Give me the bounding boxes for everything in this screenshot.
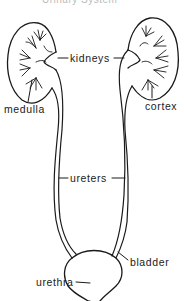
right-ureter-outer — [112, 50, 128, 256]
left-ureter-inner — [56, 70, 76, 254]
right-renal-pelvis — [128, 50, 140, 68]
urethra-leader — [76, 282, 90, 283]
label-bladder: bladder — [130, 257, 169, 268]
label-kidneys: kidneys — [70, 53, 110, 64]
left-ureter-outer — [52, 88, 72, 258]
label-medulla: medulla — [4, 104, 45, 115]
bladder-top — [72, 251, 122, 301]
right-ureter-inner — [116, 86, 132, 258]
label-cortex: cortex — [145, 101, 177, 112]
left-kidney-outline — [8, 23, 56, 104]
left-kidney-medulla — [20, 30, 52, 90]
label-urethra: urethra — [36, 277, 73, 288]
medulla-leader — [28, 80, 32, 102]
label-ureters: ureters — [70, 173, 107, 184]
right-kidney-medulla — [140, 26, 168, 90]
bladder-leader — [118, 252, 128, 260]
left-renal-pelvis — [44, 52, 56, 70]
